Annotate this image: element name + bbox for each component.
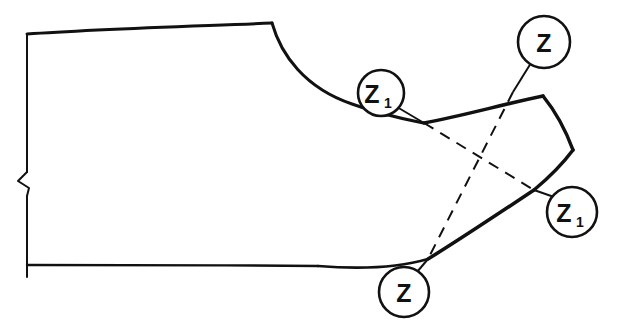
figure-canvas: Z 1 Z Z 1 Z [0,0,625,336]
flap-right-lower-edge [534,150,573,190]
label-z-upper-right[interactable]: Z [513,16,570,92]
label-circle-z1-lower-right [547,187,597,237]
lower-flap-edge [428,190,534,259]
label-text-z1-lower-right: Z [556,199,571,227]
label-z1-upper[interactable]: Z 1 [358,70,424,123]
label-subscript-z1-lower-right: 1 [576,214,584,230]
label-text-z-lower: Z [396,279,411,307]
left-edge-break-notch [18,172,29,196]
dashed-line-z1 [424,123,534,190]
leader-line-z-upper-right [513,63,531,92]
neckline-curve [272,23,424,123]
top-edge-curve [27,23,272,34]
bottom-hem-edge [27,265,318,266]
leader-line-z1-lower-right [534,190,554,197]
label-text-z-upper-right: Z [536,29,551,57]
upper-flap-edge [424,96,543,123]
bottom-hem-curve [318,259,428,268]
pattern-outline [18,23,573,277]
label-text-z1-upper: Z [364,80,379,108]
construction-lines [424,92,534,259]
label-subscript-z1-upper: 1 [384,95,392,111]
label-z1-lower-right[interactable]: Z 1 [534,187,597,237]
flap-right-upper-edge [543,96,573,150]
pattern-drawing: Z 1 Z Z 1 Z [0,0,625,336]
